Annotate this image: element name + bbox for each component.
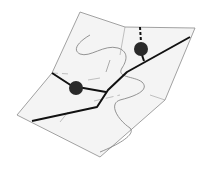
dashed-trail	[140, 27, 141, 42]
folded-map-diagram	[0, 0, 203, 173]
map-sheet	[17, 12, 195, 157]
location-marker-1	[69, 81, 83, 95]
location-marker-2	[134, 42, 148, 56]
